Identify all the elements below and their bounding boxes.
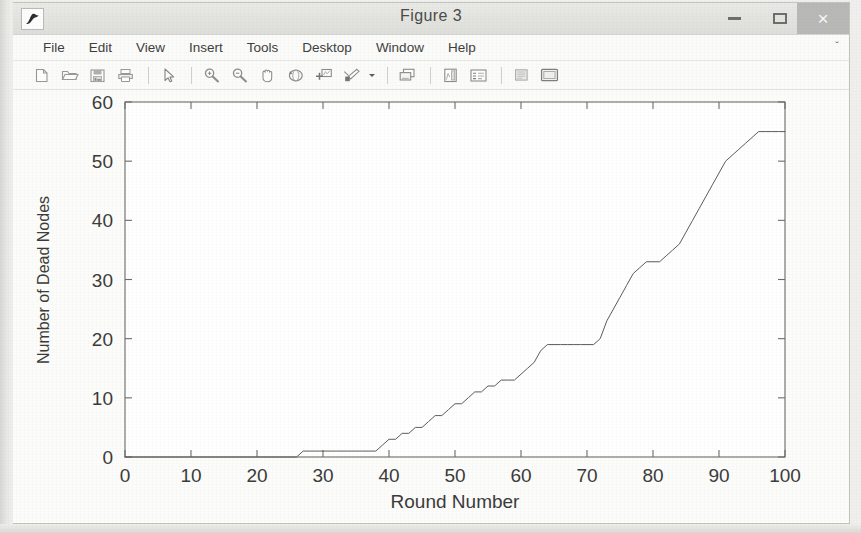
scanned-page-background: Figure 3 × File Edit View Insert Tools D… [0, 0, 861, 533]
menu-overflow-chevron-icon[interactable]: ˇ [835, 40, 839, 52]
svg-text:70: 70 [576, 465, 597, 486]
menu-window[interactable]: Window [364, 40, 436, 55]
svg-text:20: 20 [246, 465, 267, 486]
svg-text:50: 50 [444, 465, 465, 486]
svg-text:80: 80 [642, 465, 663, 486]
save-figure-icon[interactable] [85, 64, 110, 87]
close-icon: × [817, 9, 828, 28]
print-figure-icon[interactable] [113, 64, 138, 87]
svg-text:40: 40 [378, 465, 399, 486]
y-axis-tick-labels: 0102030405060 [92, 92, 113, 468]
tool-bar [13, 61, 849, 90]
plot-browser-icon[interactable] [509, 64, 534, 87]
toolbar-separator-1 [148, 67, 149, 84]
edit-plot-pointer-icon[interactable] [156, 64, 181, 87]
maximize-icon [773, 13, 787, 24]
figure-window: Figure 3 × File Edit View Insert Tools D… [12, 2, 850, 524]
page-edge-bottom [0, 524, 861, 533]
menu-insert[interactable]: Insert [177, 40, 235, 55]
link-plot-icon[interactable] [395, 64, 420, 87]
insert-legend-icon[interactable] [466, 64, 491, 87]
svg-text:0: 0 [102, 447, 113, 468]
line-chart: 0102030405060708090100 0102030405060 Rou… [13, 90, 849, 523]
brush-dropdown-caret-icon[interactable] [367, 64, 377, 87]
y-axis-label: Number of Dead Nodes [35, 196, 52, 364]
svg-text:10: 10 [180, 465, 201, 486]
close-button[interactable]: × [797, 3, 849, 34]
svg-text:20: 20 [92, 329, 113, 350]
toolbar-separator-3 [387, 67, 388, 84]
x-axis-label: Round Number [391, 491, 521, 512]
zoom-in-icon[interactable] [199, 64, 224, 87]
svg-text:60: 60 [92, 92, 113, 113]
figure-palette-icon[interactable] [537, 64, 562, 87]
pan-hand-icon[interactable] [255, 64, 280, 87]
figure-canvas[interactable]: 0102030405060708090100 0102030405060 Rou… [13, 90, 849, 523]
minimize-button[interactable] [711, 3, 757, 34]
zoom-out-icon[interactable] [227, 64, 252, 87]
insert-colorbar-icon[interactable] [438, 64, 463, 87]
brush-data-icon[interactable] [339, 64, 364, 87]
svg-text:100: 100 [769, 465, 801, 486]
new-figure-icon[interactable] [29, 64, 54, 87]
title-bar: Figure 3 × [13, 3, 849, 35]
svg-text:30: 30 [312, 465, 333, 486]
menu-view[interactable]: View [124, 40, 177, 55]
svg-text:0: 0 [120, 465, 131, 486]
menu-bar: File Edit View Insert Tools Desktop Wind… [13, 35, 849, 61]
toolbar-separator-5 [501, 67, 502, 84]
svg-text:90: 90 [708, 465, 729, 486]
menu-desktop[interactable]: Desktop [290, 40, 364, 55]
menu-help[interactable]: Help [436, 40, 488, 55]
open-file-icon[interactable] [57, 64, 82, 87]
toolbar-separator-4 [430, 67, 431, 84]
toolbar-separator-2 [191, 67, 192, 84]
rotate-3d-icon[interactable] [283, 64, 308, 87]
menu-edit[interactable]: Edit [77, 40, 124, 55]
svg-text:10: 10 [92, 388, 113, 409]
menu-tools[interactable]: Tools [235, 40, 291, 55]
data-cursor-icon[interactable] [311, 64, 336, 87]
svg-text:40: 40 [92, 210, 113, 231]
minimize-icon [728, 17, 741, 20]
svg-text:50: 50 [92, 151, 113, 172]
svg-text:30: 30 [92, 270, 113, 291]
x-axis-tick-labels: 0102030405060708090100 [120, 465, 801, 486]
svg-text:60: 60 [510, 465, 531, 486]
menu-file[interactable]: File [31, 40, 77, 55]
